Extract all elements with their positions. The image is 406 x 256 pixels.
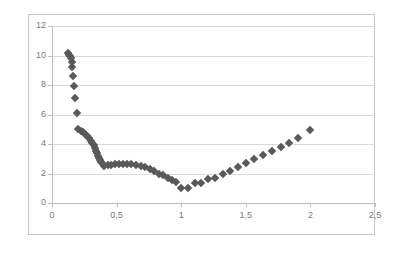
data-point bbox=[258, 151, 266, 159]
data-points-group bbox=[0, 0, 406, 256]
data-point bbox=[294, 134, 302, 142]
data-point bbox=[242, 159, 250, 167]
data-point bbox=[72, 109, 80, 117]
scatter-chart: 024681012 00,511,522,5 bbox=[0, 0, 406, 256]
data-point bbox=[226, 166, 234, 174]
data-point bbox=[69, 72, 77, 80]
data-point bbox=[250, 155, 258, 163]
data-point bbox=[70, 81, 78, 89]
data-point bbox=[276, 142, 284, 150]
data-point bbox=[285, 139, 293, 147]
data-point bbox=[234, 163, 242, 171]
data-point bbox=[267, 146, 275, 154]
data-point bbox=[68, 63, 76, 71]
data-point bbox=[306, 126, 314, 134]
data-point bbox=[71, 93, 79, 101]
data-point bbox=[184, 184, 192, 192]
